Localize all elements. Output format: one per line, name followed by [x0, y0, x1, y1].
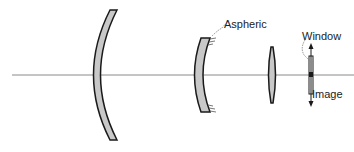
arrow-up-icon — [309, 43, 314, 49]
image-label: Image — [312, 88, 343, 100]
aspheric-label: Aspheric — [224, 18, 267, 30]
window-leader — [302, 40, 309, 60]
thin-lens — [269, 47, 276, 103]
optical-diagram: Aspheric Window Image — [0, 0, 354, 152]
arrow-down-icon — [309, 101, 314, 107]
window-label: Window — [302, 30, 341, 42]
